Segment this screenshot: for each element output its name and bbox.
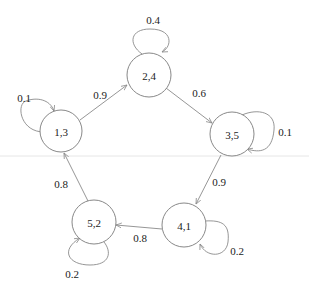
self-loop-label-3-5: 0.1 bbox=[278, 126, 292, 138]
edge-5-2-to-1-3 bbox=[64, 153, 88, 201]
self-loop-label-5-2: 0.2 bbox=[65, 268, 79, 280]
state-node-3-5: 3,5 bbox=[210, 112, 254, 156]
state-node-4-1: 4,1 bbox=[162, 203, 206, 247]
self-loop-2-4 bbox=[133, 29, 169, 54]
state-label-3-5: 3,5 bbox=[225, 129, 239, 141]
self-loop-label-2-4: 0.4 bbox=[146, 14, 160, 26]
edge-label-4-1-to-5-2: 0.8 bbox=[133, 232, 147, 244]
state-label-5-2: 5,2 bbox=[87, 217, 101, 229]
state-node-2-4: 2,4 bbox=[127, 53, 171, 97]
state-label-1-3: 1,3 bbox=[54, 126, 68, 138]
edge-label-5-2-to-1-3: 0.8 bbox=[54, 178, 68, 190]
self-loop-label-4-1: 0.2 bbox=[230, 245, 244, 257]
edge-label-1-3-to-2-4: 0.9 bbox=[93, 89, 107, 101]
state-label-2-4: 2,4 bbox=[142, 70, 156, 82]
edge-4-1-to-5-2 bbox=[116, 225, 162, 229]
edge-label-3-5-to-4-1: 0.9 bbox=[212, 176, 226, 188]
state-node-5-2: 5,2 bbox=[72, 200, 116, 244]
state-node-1-3: 1,3 bbox=[40, 110, 82, 152]
markov-chain-diagram: 0.9 0.6 0.9 0.8 0.8 0.1 0.4 0.1 0.2 0.2 … bbox=[0, 0, 309, 286]
state-label-4-1: 4,1 bbox=[177, 220, 191, 232]
edge-label-2-4-to-3-5: 0.6 bbox=[192, 87, 206, 99]
self-loop-label-1-3: 0.1 bbox=[17, 92, 31, 104]
